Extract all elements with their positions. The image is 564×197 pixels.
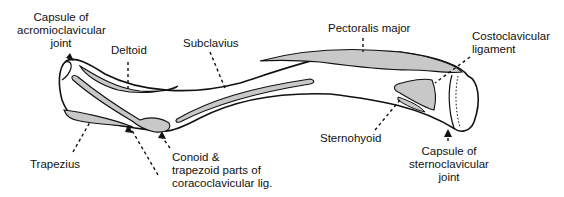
clavicle-diagram: Capsule of acromioclavicular joint Delto…: [0, 0, 564, 197]
label-trapezius: Trapezius: [30, 158, 80, 171]
label-pectoralis-major: Pectoralis major: [328, 22, 410, 35]
label-subclavius: Subclavius: [183, 37, 239, 50]
label-sternohyoid: Sternohyoid: [320, 132, 381, 145]
label-deltoid: Deltoid: [111, 44, 147, 57]
label-capsule-acromioclavicular: Capsule of acromioclavicular joint: [17, 11, 105, 50]
label-costoclavicular-ligament: Costoclavicular ligament: [472, 30, 550, 56]
label-capsule-sternoclavicular: Capsule of sternoclavicular joint: [405, 145, 493, 184]
label-conoid-trapezoid: Conoid & trapezoid parts of coracoclavic…: [172, 151, 272, 190]
